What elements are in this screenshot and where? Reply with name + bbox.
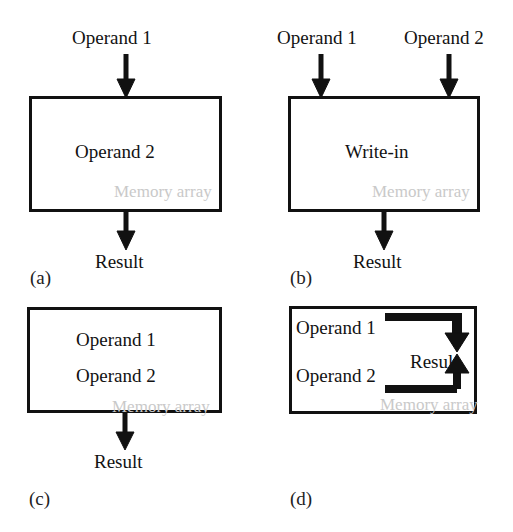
panel-b-input-arrow-down-operand2-icon [440,54,458,99]
panel-c-caption: (c) [29,489,50,508]
panel-d-elbow-arrow-down-icon [385,313,467,353]
panel-d-memory-array-label: Memory array [380,396,478,413]
panel-b-input-label-operand2: Operand 2 [404,28,484,47]
panel-b-caption: (b) [290,268,312,287]
figure-memory-compute-schemes: Operand 1 Operand 2 Memory array Result … [0,0,513,532]
panel-a-output-label-result: Result [95,252,144,271]
panel-d-internal-result-label: Result [410,352,459,371]
panel-d-caption: (d) [290,489,312,508]
panel-d-box-text-operand2: Operand 2 [296,366,376,385]
panel-c-box-text-operand1: Operand 1 [76,330,156,349]
panel-a-output-arrow-down-icon [117,211,135,251]
panel-b-input-label-operand1: Operand 1 [277,28,357,47]
panel-c-box-text-operand2: Operand 2 [76,366,156,385]
panel-b-input-arrow-down-operand1-icon [312,54,330,99]
panel-b-box-text-write-in: Write-in [345,142,409,161]
panel-c-output-arrow-down-icon [116,413,134,451]
panel-a-caption: (a) [30,268,51,287]
panel-b-output-label-result: Result [353,252,402,271]
panel-a-box-text-operand2: Operand 2 [75,142,155,161]
panel-d-box-text-operand1: Operand 1 [296,318,376,337]
panel-a-input-arrow-down-icon [117,54,135,99]
panel-c-output-label-result: Result [94,452,143,471]
panel-b-output-arrow-down-icon [375,211,393,251]
panel-b-memory-array-label: Memory array [372,183,470,200]
panel-a-memory-array-label: Memory array [114,183,212,200]
panel-a-input-label-operand1: Operand 1 [72,28,152,47]
